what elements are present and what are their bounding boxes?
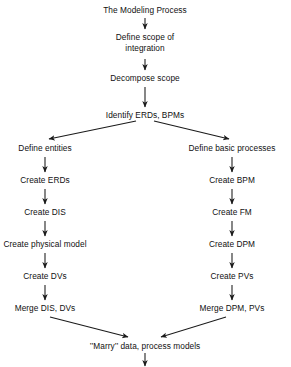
node-identify-erds-bpms: Identify ERDs, BPMs (106, 110, 184, 120)
edge-identify-to-define-basic-processes (154, 121, 229, 139)
node-create-dpm: Create DPM (209, 239, 255, 249)
flowchart-diagram: The Modeling Process Define scope of int… (0, 0, 291, 367)
node-merge-dis-dvs: Merge DIS, DVs (15, 303, 76, 313)
node-create-bpm: Create BPM (209, 175, 255, 185)
node-create-physical-model: Create physical model (3, 239, 86, 249)
node-create-fm: Create FM (212, 207, 252, 217)
node-title: The Modeling Process (103, 5, 187, 15)
node-create-dis: Create DIS (24, 207, 66, 217)
node-create-pvs: Create PVs (211, 271, 254, 281)
node-define-basic-processes: Define basic processes (189, 143, 276, 153)
node-marry-data-process-models: ’’Marry’’ data, process models (90, 341, 201, 351)
node-create-erds: Create ERDs (20, 175, 69, 185)
node-decompose-scope: Decompose scope (110, 73, 179, 83)
edge-merge-dis-dvs-to-marry (50, 317, 128, 337)
node-define-scope-of-integration: Define scope of integration (116, 32, 174, 54)
node-create-dvs: Create DVs (23, 271, 66, 281)
node-merge-dpm-pvs: Merge DPM, PVs (200, 303, 265, 313)
node-define-entities: Define entities (18, 143, 71, 153)
edge-identify-to-define-entities (49, 121, 136, 139)
edge-merge-dpm-pvs-to-marry (161, 317, 226, 337)
